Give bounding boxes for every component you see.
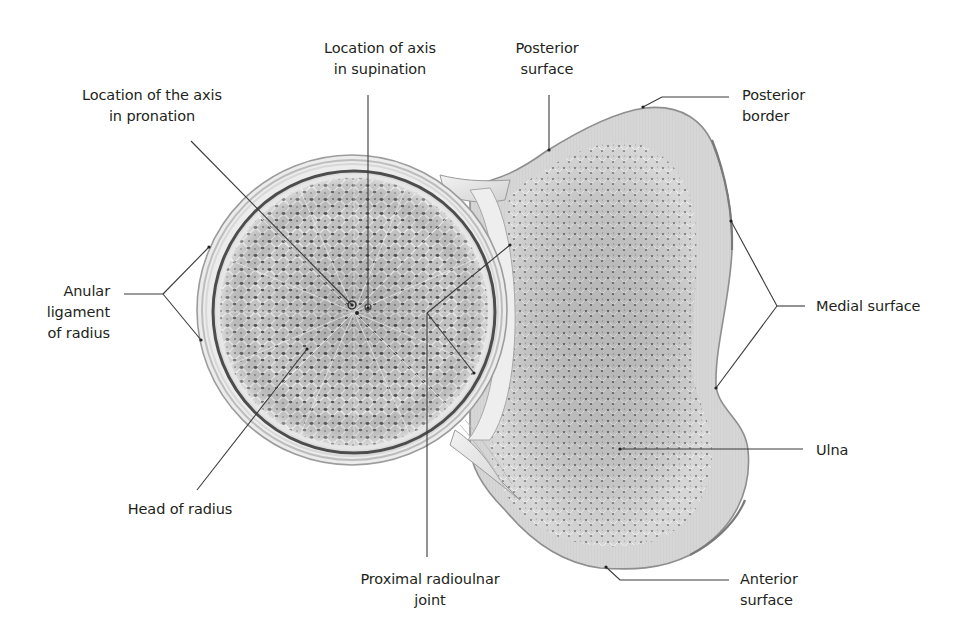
label-line: Medial surface <box>816 296 956 317</box>
label-axis-supination: Location of axisin supination <box>300 38 460 80</box>
label-line: surface <box>740 590 830 611</box>
label-line: in pronation <box>62 106 242 127</box>
label-line: Proximal radioulnar <box>335 569 525 590</box>
label-line: Anular <box>30 281 110 302</box>
label-line: in supination <box>300 59 460 80</box>
label-line: Ulna <box>816 440 876 461</box>
leader-endpoint-dot <box>641 105 644 108</box>
leader-endpoint-dot <box>199 338 202 341</box>
leader-endpoint-dot <box>508 243 511 246</box>
label-line: Location of axis <box>300 38 460 59</box>
leader-endpoint-dot <box>729 219 732 222</box>
label-line: Posterior <box>502 38 592 59</box>
leader-endpoint-dot <box>305 347 308 350</box>
leader-endpoint-dot <box>604 565 607 568</box>
leader-posterior-border <box>643 97 729 107</box>
label-proximal-radioulnar-joint: Proximal radioulnarjoint <box>335 569 525 611</box>
leader-endpoint-dot <box>207 245 210 248</box>
head-of-radius <box>197 155 507 465</box>
label-anular-ligament: Anularligamentof radius <box>30 281 110 344</box>
label-axis-pronation: Location of the axisin pronation <box>62 85 242 127</box>
label-medial-surface: Medial surface <box>816 296 956 317</box>
leader-endpoint-dot <box>714 386 717 389</box>
label-line: ligament <box>30 302 110 323</box>
leader-endpoint-dot <box>618 447 621 450</box>
label-line: border <box>742 106 832 127</box>
label-anterior-surface: Anteriorsurface <box>740 569 830 611</box>
diagram-canvas: Location of axisin supinationLocation of… <box>0 0 962 644</box>
label-posterior-border: Posteriorborder <box>742 85 832 127</box>
label-line: surface <box>502 59 592 80</box>
label-line: Head of radius <box>110 499 250 520</box>
label-line: Location of the axis <box>62 85 242 106</box>
leader-anular-lower <box>163 294 201 340</box>
label-head-of-radius: Head of radius <box>110 499 250 520</box>
leader-medial-upper <box>731 221 777 306</box>
label-line: joint <box>335 590 525 611</box>
label-line: Anterior <box>740 569 830 590</box>
label-line: Posterior <box>742 85 832 106</box>
leader-medial-lower <box>716 306 777 388</box>
label-ulna: Ulna <box>816 440 876 461</box>
label-posterior-surface: Posteriorsurface <box>502 38 592 80</box>
label-line: of radius <box>30 323 110 344</box>
leader-endpoint-dot <box>366 306 369 309</box>
leader-endpoint-dot <box>547 148 550 151</box>
leader-endpoint-dot <box>472 371 475 374</box>
leader-endpoint-dot <box>350 303 353 306</box>
